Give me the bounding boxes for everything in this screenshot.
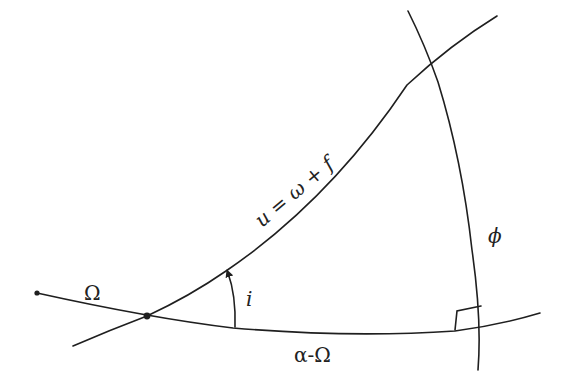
start-point [34,290,39,295]
argument-of-latitude-label: u = ω + f [250,150,341,232]
inclination-arc [228,273,235,327]
latitude-phi-label: ϕ [488,224,502,248]
right-ascension-diff-label: α-Ω [294,343,331,367]
ascending-node-point [144,313,151,320]
spherical-triangle-diagram: Ω i u = ω + f ϕ α-Ω [0,0,570,390]
equator-arc [37,293,540,334]
meridian-arc [408,11,479,370]
orbit-arc [73,16,497,346]
inclination-label: i [246,287,252,311]
omega-node-label: Ω [84,281,101,305]
right-angle-marker [455,306,481,330]
